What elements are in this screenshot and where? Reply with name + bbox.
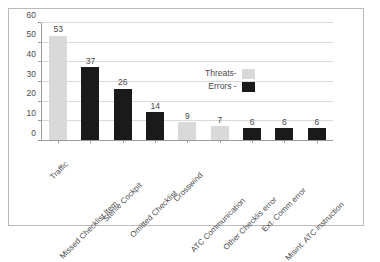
bar-slot: 53	[42, 23, 74, 140]
bar: 7	[211, 126, 229, 140]
bar-value-label: 7	[217, 116, 222, 125]
bar-value-label: 37	[86, 57, 95, 66]
legend-swatch	[242, 69, 255, 79]
bar: 37	[81, 67, 99, 140]
bar: 6	[275, 128, 293, 140]
bar-slot: 37	[74, 23, 106, 140]
bar: 6	[308, 128, 326, 140]
bar-slot: 9	[171, 23, 203, 140]
bar-value-label: 6	[282, 118, 287, 127]
x-axis-labels: TrafficMissed Checklist ItemSterile Cock…	[41, 142, 333, 226]
y-tick-label: 0	[31, 128, 36, 137]
x-axis-label: Misint. ATC instruction	[284, 201, 346, 262]
bar-value-label: 14	[150, 102, 159, 111]
legend-label: Threats-	[205, 69, 237, 78]
bar-value-label: 26	[118, 78, 127, 87]
bar-slot: 26	[107, 23, 139, 140]
bar-slot: 6	[268, 23, 300, 140]
bar-slot: 6	[301, 23, 333, 140]
y-tick-label: 40	[27, 50, 36, 59]
y-tick-label: 60	[27, 10, 36, 19]
y-tick-label: 20	[27, 89, 36, 98]
bar-value-label: 53	[53, 25, 62, 34]
chart-figure: 0102030405060 5337261497666 TrafficMisse…	[8, 8, 364, 226]
y-tick-label: 50	[27, 30, 36, 39]
bar: 9	[178, 122, 196, 140]
x-axis-label: Crosswind	[172, 171, 204, 203]
bar: 26	[114, 89, 132, 140]
bar: 14	[146, 112, 164, 140]
x-axis-label: Sterile Cockpit	[101, 181, 143, 223]
bar: 6	[243, 128, 261, 140]
chart-legend: Threats-Errors -	[205, 67, 255, 93]
bar-value-label: 6	[314, 118, 319, 127]
bar-group: 5337261497666	[42, 23, 333, 140]
legend-entry: Threats-	[205, 67, 255, 80]
bar: 53	[49, 36, 67, 140]
bar-value-label: 9	[185, 112, 190, 121]
y-tick-label: 10	[27, 109, 36, 118]
x-axis-label: Traffic	[49, 160, 70, 181]
plot-area: 0102030405060 5337261497666	[41, 23, 333, 141]
legend-swatch	[242, 82, 255, 92]
legend-label: Errors -	[208, 82, 236, 91]
y-tick-label: 30	[27, 69, 36, 78]
legend-entry: Errors -	[205, 80, 255, 93]
x-axis-label: ATC Communication	[189, 197, 246, 254]
bar-slot: 14	[139, 23, 171, 140]
bar-value-label: 6	[250, 118, 255, 127]
